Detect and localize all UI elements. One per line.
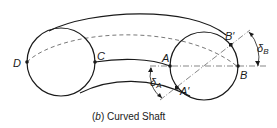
dashed-centerline <box>27 35 238 67</box>
delta-A-arrow-top <box>148 67 153 72</box>
inner-lower-contour <box>80 81 190 96</box>
curved-shaft-diagram: D C A B B′ A′ δB δA (b) Curved Shaft <box>0 0 277 128</box>
delta-B-arrow-bottom <box>255 61 260 66</box>
label-C: C <box>97 50 105 62</box>
label-B: B <box>240 69 247 81</box>
label-D: D <box>13 57 21 69</box>
left-section-circle <box>27 28 95 96</box>
label-delta-B: δB <box>257 42 269 56</box>
label-A: A <box>161 52 169 64</box>
delta-A-arrow-bottom <box>157 93 162 98</box>
label-delta-A: δA <box>150 76 161 90</box>
label-A-prime: A′ <box>179 85 190 97</box>
point-B-prime <box>229 43 233 47</box>
label-B-prime: B′ <box>225 30 235 42</box>
point-B <box>236 64 240 68</box>
inner-upper-contour <box>95 59 170 66</box>
delta-B-arrow-top <box>249 32 254 37</box>
point-A-prime <box>175 86 179 90</box>
point-D <box>25 60 29 64</box>
figure-caption: (b) Curved Shaft <box>92 111 166 122</box>
point-A <box>168 64 172 68</box>
